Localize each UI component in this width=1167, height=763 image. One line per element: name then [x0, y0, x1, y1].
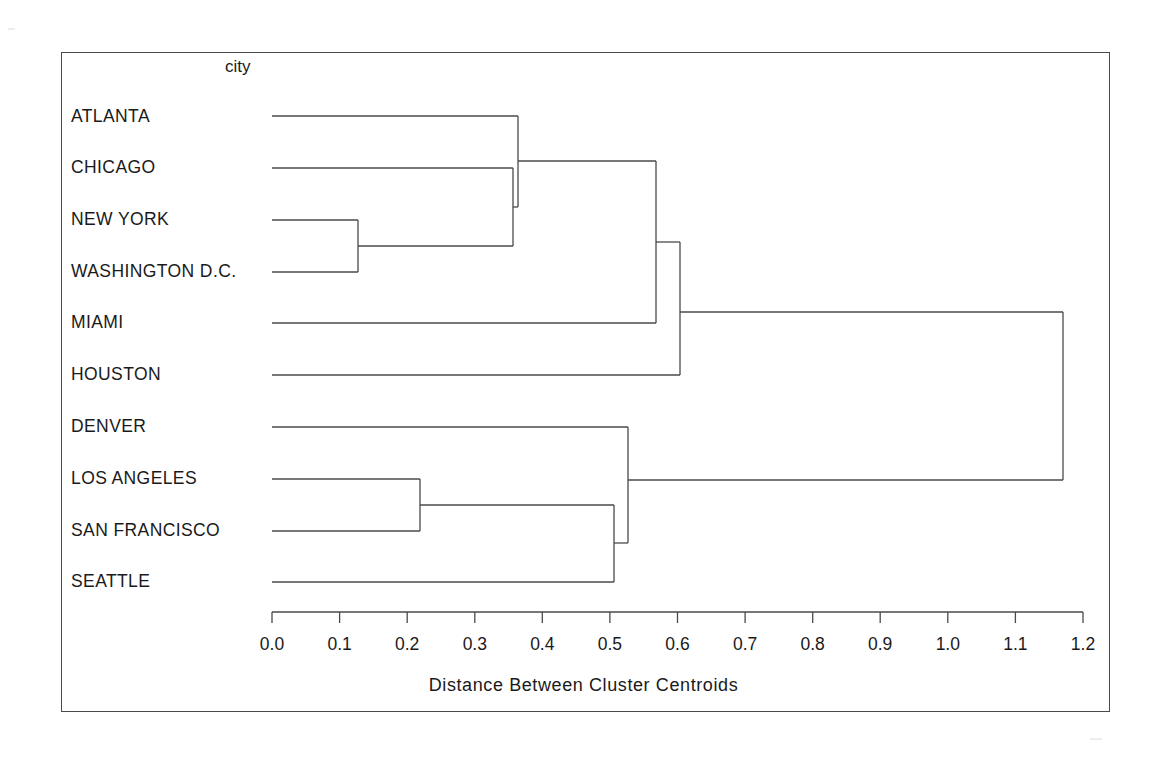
axis-tick-label-0-7: 0.7: [733, 636, 757, 654]
axis-title: Distance Between Cluster Centroids: [0, 676, 1167, 694]
axis-tick-label-0-1: 0.1: [327, 636, 351, 654]
axis-tick-label-0-3: 0.3: [463, 636, 487, 654]
axis-tick-label-1-0: 1.0: [936, 636, 960, 654]
axis-tick-label-0-0: 0.0: [260, 636, 284, 654]
dendrogram-tree: [0, 0, 1167, 763]
axis-tick-label-0-4: 0.4: [530, 636, 554, 654]
axis-tick-label-1-1: 1.1: [1003, 636, 1027, 654]
dendrogram-screenshot: city ATLANTA CHICAGO NEW YORK WASHINGTON…: [0, 0, 1167, 763]
axis-tick-label-1-2: 1.2: [1071, 636, 1095, 654]
axis-tick-label-0-6: 0.6: [665, 636, 689, 654]
axis-tick-label-0-2: 0.2: [395, 636, 419, 654]
axis-tick-label-0-5: 0.5: [598, 636, 622, 654]
axis-tick-label-0-8: 0.8: [801, 636, 825, 654]
axis-tick-label-0-9: 0.9: [868, 636, 892, 654]
